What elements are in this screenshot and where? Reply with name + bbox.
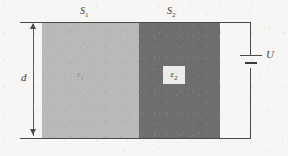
area-label-s1: S1	[80, 5, 89, 19]
capacitor-bottom-plate	[20, 138, 251, 139]
circuit-wire-lower-right	[250, 68, 251, 139]
dimension-arrowhead-up-icon	[30, 23, 36, 29]
area-label-s1-subscript: 1	[85, 11, 89, 19]
capacitor-top-plate	[20, 22, 251, 23]
voltage-label: U	[266, 48, 274, 60]
dielectric-region-1	[42, 22, 139, 138]
battery-icon-long-plate	[240, 55, 262, 56]
circuit-wire-upper-right	[250, 22, 251, 55]
permittivity-label-2-box: ε2	[163, 66, 185, 84]
separation-label: d	[21, 71, 27, 83]
dimension-arrowhead-down-icon	[30, 129, 36, 135]
area-label-s2: S2	[167, 5, 176, 19]
battery-icon-short-plate	[245, 62, 257, 64]
texture-overlay	[42, 22, 139, 138]
permittivity-label-2: ε2	[170, 69, 177, 82]
capacitor-diagram: U d S1 S2 ε1 ε2	[0, 0, 288, 156]
permittivity-label-1: ε1	[77, 69, 84, 82]
permittivity-label-2-subscript: 2	[174, 73, 178, 81]
separation-dimension-line	[33, 24, 34, 136]
area-label-s2-subscript: 2	[172, 11, 176, 19]
permittivity-label-1-subscript: 1	[81, 74, 85, 82]
